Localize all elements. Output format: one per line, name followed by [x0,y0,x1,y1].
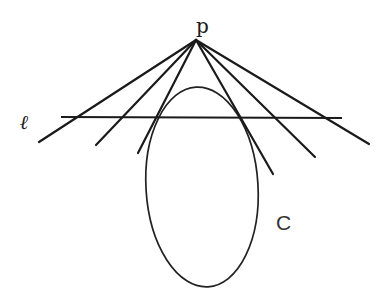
tangent-left [138,40,196,153]
pencil-of-lines-diagram: p ℓ C [0,0,387,300]
line-l [61,117,342,118]
ray-5 [196,40,315,157]
tangent-right [196,40,273,174]
label-l: ℓ [20,110,29,134]
label-c: C [276,211,291,234]
label-p: p [196,14,209,38]
rays-from-p [39,40,369,174]
ray-6 [196,40,369,144]
ray-1 [39,40,196,142]
